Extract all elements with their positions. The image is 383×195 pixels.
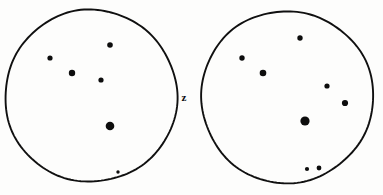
right-circle (201, 11, 373, 183)
left-circle (6, 9, 178, 181)
center-axis-label: z (182, 92, 187, 103)
star-dot (300, 116, 309, 125)
star-dot (342, 100, 348, 106)
left-circle-outline (6, 9, 178, 181)
star-dot (317, 166, 322, 171)
figure-container: z (0, 0, 383, 195)
stereo-pair-diagram (0, 0, 383, 195)
star-dot (116, 170, 119, 173)
star-dot (98, 77, 103, 82)
star-dot (305, 167, 309, 171)
star-dot (297, 35, 302, 40)
star-dot (47, 55, 52, 60)
star-dot (106, 122, 115, 131)
star-dot (239, 55, 244, 60)
star-dot (260, 70, 267, 77)
right-circle-outline (201, 11, 373, 183)
star-dot (324, 83, 329, 88)
star-dot (69, 70, 75, 76)
star-dot (107, 42, 113, 48)
